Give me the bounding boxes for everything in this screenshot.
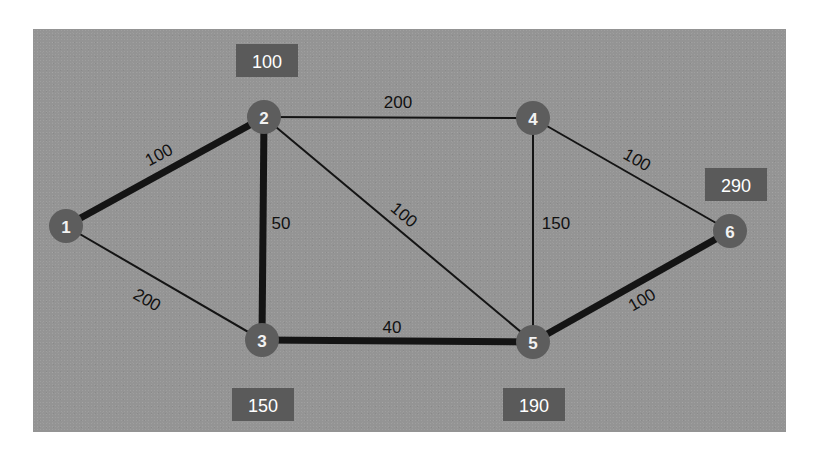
edge-3-5[interactable] xyxy=(262,340,533,342)
graph-canvas: 123456 1002005020010040150100100 1002901… xyxy=(0,0,816,458)
edge-5-6[interactable] xyxy=(533,231,730,342)
node-label-4: 4 xyxy=(528,110,538,129)
badge-node-5: 190 xyxy=(503,388,565,421)
edge-2-3[interactable] xyxy=(262,117,264,340)
badge-node-2-text: 100 xyxy=(252,52,282,72)
node-label-1: 1 xyxy=(61,218,70,237)
badge-node-6-text: 290 xyxy=(721,176,751,196)
badge-node-3: 150 xyxy=(232,388,294,421)
badge-node-2: 100 xyxy=(236,44,298,77)
edge-2-5[interactable] xyxy=(264,117,533,342)
node-4[interactable]: 4 xyxy=(516,101,550,135)
node-label-3: 3 xyxy=(257,332,266,351)
badges-layer: 100290150190 xyxy=(232,44,767,421)
edge-1-3[interactable] xyxy=(66,226,262,340)
badge-node-3-text: 150 xyxy=(248,396,278,416)
edge-weight-4-5: 150 xyxy=(542,214,570,233)
node-1[interactable]: 1 xyxy=(49,209,83,243)
edge-weight-2-4: 200 xyxy=(384,93,412,112)
node-3[interactable]: 3 xyxy=(245,323,279,357)
node-5[interactable]: 5 xyxy=(516,325,550,359)
node-6[interactable]: 6 xyxy=(713,214,747,248)
edge-1-2[interactable] xyxy=(66,117,264,226)
edge-labels-layer: 1002005020010040150100100 xyxy=(130,93,659,337)
badge-node-5-text: 190 xyxy=(519,396,549,416)
node-2[interactable]: 2 xyxy=(247,100,281,134)
network-diagram-figure: 123456 1002005020010040150100100 1002901… xyxy=(0,0,816,458)
edge-weight-1-3: 200 xyxy=(130,285,164,316)
edge-weight-3-5: 40 xyxy=(383,318,402,337)
node-label-6: 6 xyxy=(725,223,734,242)
edge-weight-2-3: 50 xyxy=(272,214,291,233)
node-label-5: 5 xyxy=(528,334,537,353)
badge-node-6: 290 xyxy=(705,168,767,201)
edge-weight-2-5: 100 xyxy=(387,199,421,232)
node-label-2: 2 xyxy=(259,109,268,128)
edge-2-4[interactable] xyxy=(264,117,533,118)
